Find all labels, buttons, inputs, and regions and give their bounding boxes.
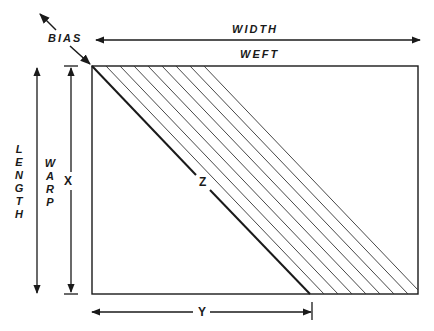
z-label: Z xyxy=(197,176,208,188)
bias-label: BIAS xyxy=(48,33,82,44)
warp-label: WARP xyxy=(44,157,56,209)
fabric-rectangle xyxy=(92,66,418,294)
width-label: WIDTH xyxy=(232,24,278,35)
x-label: X xyxy=(64,175,72,187)
bias-arrow-down xyxy=(70,46,90,64)
bias-hatching xyxy=(106,66,418,294)
bias-arrow-up xyxy=(40,14,56,30)
y-label: Y xyxy=(196,306,208,318)
length-label: LENGTH xyxy=(13,143,25,221)
fabric-grain-diagram xyxy=(0,0,434,331)
weft-label: WEFT xyxy=(240,49,279,60)
